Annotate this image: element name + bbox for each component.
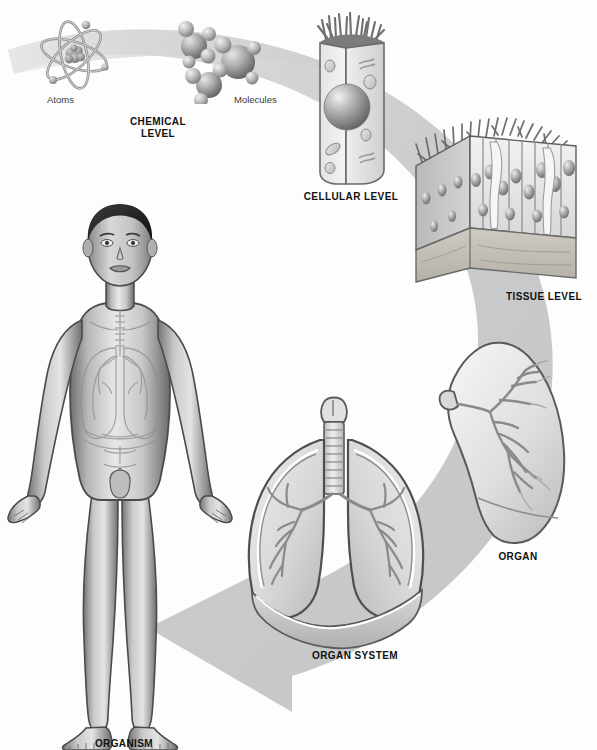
organ-system-label: ORGAN SYSTEM	[305, 650, 405, 662]
atom-icon	[26, 14, 122, 96]
figure-canvas: Atoms Molecules	[0, 0, 597, 750]
molecules-icon	[168, 12, 278, 104]
tissue-level-label: TISSUE LEVEL	[498, 291, 590, 303]
epithelial-tissue-block-icon	[404, 110, 584, 292]
molecules-sublabel: Molecules	[234, 94, 277, 105]
human-body-icon	[6, 198, 234, 750]
chemical-level-label: CHEMICAL LEVEL	[108, 116, 208, 139]
organism-label: ORGANISM	[84, 738, 164, 750]
respiratory-system-icon	[236, 396, 460, 654]
lung-outline	[448, 343, 564, 543]
atoms-sublabel: Atoms	[47, 94, 74, 105]
cellular-level-label: CELLULAR LEVEL	[301, 191, 401, 203]
columnar-cell-icon	[306, 12, 398, 190]
organ-label: ORGAN	[488, 551, 548, 563]
